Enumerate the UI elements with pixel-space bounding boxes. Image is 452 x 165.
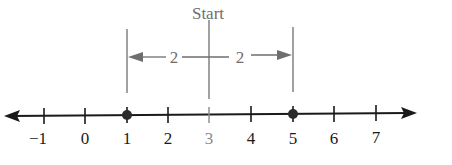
tick-label: 2 bbox=[164, 129, 173, 148]
tick-label: 1 bbox=[123, 129, 132, 148]
tick-label: −1 bbox=[29, 129, 47, 148]
number-line-svg: Start 2 2 −1 0 1 2 3 4 5 6 7 bbox=[0, 0, 452, 165]
tick-label: 3 bbox=[205, 129, 214, 148]
tick-label: 4 bbox=[247, 129, 256, 148]
tick-label: 6 bbox=[330, 129, 339, 148]
right-arrowhead-icon bbox=[277, 50, 292, 60]
point-1 bbox=[122, 110, 132, 120]
tick-label: 0 bbox=[81, 129, 90, 148]
left-arrowhead-icon bbox=[128, 52, 143, 62]
right-distance-label: 2 bbox=[236, 48, 245, 67]
number-line-diagram: Start 2 2 −1 0 1 2 3 4 5 6 7 bbox=[0, 0, 452, 165]
tick-labels: −1 0 1 2 3 4 5 6 7 bbox=[29, 128, 381, 148]
left-distance-label: 2 bbox=[170, 48, 179, 67]
point-5 bbox=[288, 109, 298, 119]
start-label: Start bbox=[192, 4, 224, 23]
tick-label: 7 bbox=[372, 128, 381, 147]
tick-label: 5 bbox=[289, 129, 298, 148]
